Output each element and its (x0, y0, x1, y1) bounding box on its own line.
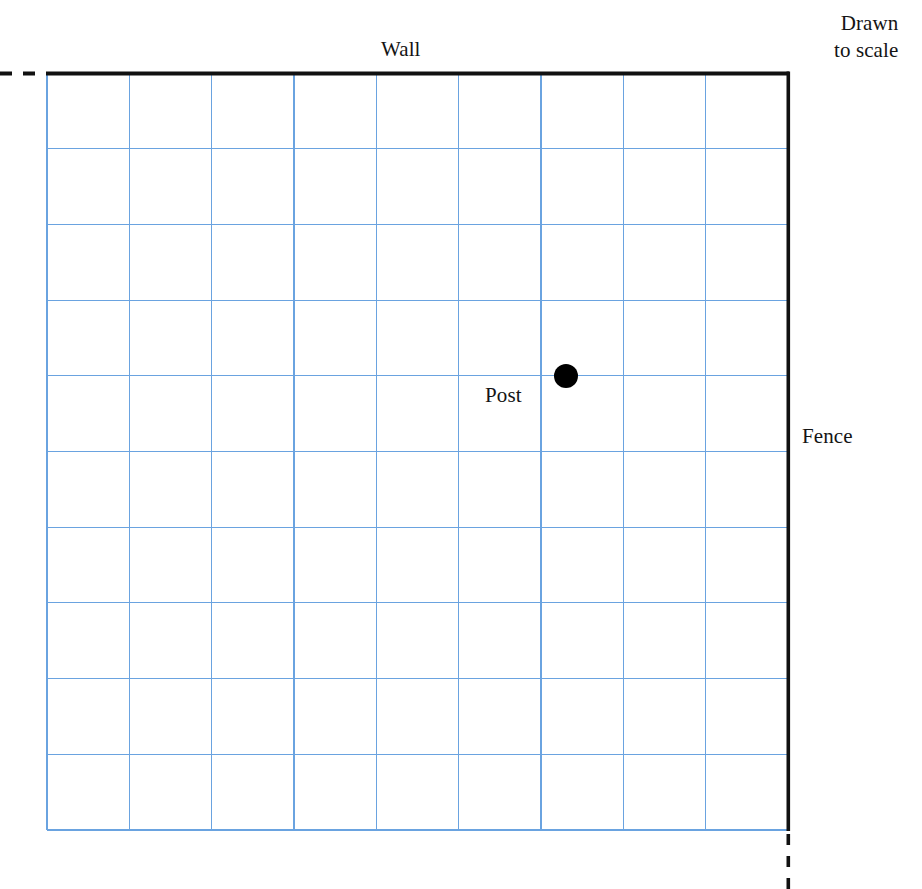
diagram-canvas: Wall Fence Post Drawn to scale (0, 0, 922, 889)
post-label: Post (485, 382, 522, 408)
scale-note: Drawn to scale (836, 10, 898, 64)
fence-label: Fence (802, 423, 853, 449)
scale-note-line-1: Drawn (836, 10, 898, 37)
scale-note-line-2: to scale (834, 37, 898, 64)
wall-fence-post-diagram (0, 0, 922, 889)
wall-label: Wall (381, 36, 421, 62)
post-marker[interactable] (554, 364, 578, 388)
grid-lines (47, 73, 788, 830)
